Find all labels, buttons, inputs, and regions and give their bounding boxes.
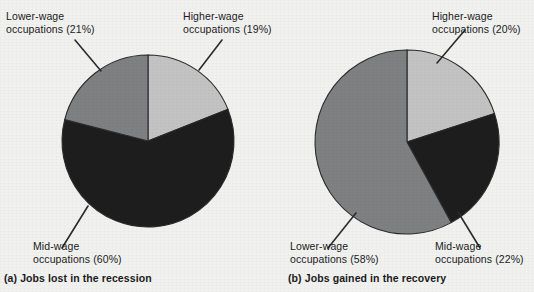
callout-higher-wage-b: Higher-wage occupations (20%)	[432, 10, 521, 35]
caption-panel-b: (b) Jobs gained in the recovery	[288, 272, 446, 285]
leader-line-lower-wage-a	[75, 40, 101, 71]
callout-lower-wage-b: Lower-wage occupations (58%)	[290, 240, 379, 265]
caption-panel-a: (a) Jobs lost in the recession	[4, 272, 152, 285]
callout-mid-wage-b: Mid-wage occupations (22%)	[435, 240, 524, 265]
callout-lower-wage-a: Lower-wage occupations (21%)	[6, 10, 95, 35]
callout-higher-wage-a: Higher-wage occupations (19%)	[183, 10, 272, 35]
figure-two-pie-charts: Lower-wage occupations (21%) Higher-wage…	[0, 0, 534, 292]
leader-line-higher-wage-a	[199, 40, 222, 70]
callout-mid-wage-a: Mid-wage occupations (60%)	[33, 240, 122, 265]
pie-chart-panel-b: Higher-wage occupations (20%) Lower-wage…	[280, 0, 534, 292]
pie-chart-panel-a: Lower-wage occupations (21%) Higher-wage…	[0, 0, 280, 292]
